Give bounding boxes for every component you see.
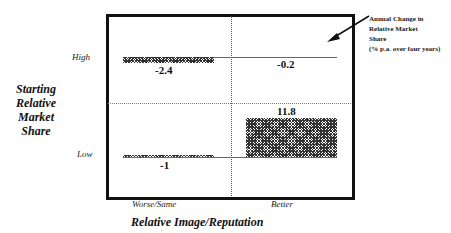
y-axis-title: Starting Relative Market Share [6, 82, 66, 138]
col-label-worse: Worse/Same [132, 199, 176, 209]
note-line: Share [369, 34, 451, 44]
value-high-worse: -2.4 [155, 64, 172, 76]
horizontal-divider [108, 103, 351, 104]
y-axis-line: Starting [6, 82, 66, 96]
note-line: Relative Market [369, 24, 451, 34]
x-axis-title: Relative Image/Reputation [131, 215, 263, 230]
bar-high-worse [123, 57, 214, 63]
bar-low-worse [123, 155, 214, 157]
vertical-divider [231, 16, 232, 196]
annotation-note: Annual Change in Relative Market Share (… [369, 14, 451, 54]
bar-low-better [246, 118, 337, 157]
value-high-better: -0.2 [277, 58, 294, 70]
y-axis-line: Share [6, 124, 66, 138]
col-label-better: Better [271, 199, 293, 209]
y-axis-line: Market [6, 110, 66, 124]
note-line: (% p.a. over four years) [369, 44, 451, 54]
baseline-low [123, 157, 337, 158]
row-label-low: Low [77, 149, 93, 159]
value-low-better: 11.8 [277, 105, 296, 117]
value-low-worse: -1 [160, 159, 169, 171]
note-line: Annual Change in [369, 14, 451, 24]
arrow-icon [325, 14, 371, 44]
y-axis-line: Relative [6, 96, 66, 110]
row-label-high: High [72, 52, 90, 62]
